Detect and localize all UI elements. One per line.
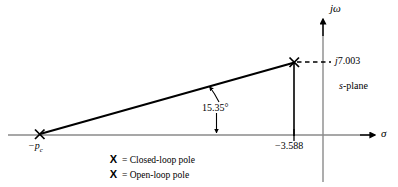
angle-leader-upper-arrow <box>210 87 220 103</box>
open-loop-pole-label-subscript: c <box>40 146 43 154</box>
real-axis-label: σ <box>381 128 386 139</box>
imaginary-value-number: 7.003 <box>338 55 361 66</box>
legend-item-open-loop-pole: X = Open-loop pole <box>108 167 195 182</box>
legend: X = Closed-loop pole X = Open-loop pole <box>108 152 195 182</box>
s-plane-label-rest: -plane <box>343 80 368 91</box>
pole-vector-line <box>40 63 295 135</box>
open-loop-pole-marker <box>35 130 45 140</box>
open-loop-pole-label: −pc <box>28 141 43 154</box>
s-plane-diagram <box>0 0 398 187</box>
closed-loop-pole-marker-icon: X <box>108 154 119 165</box>
imaginary-axis-label: jω <box>330 3 341 14</box>
legend-item-closed-loop-pole: X = Closed-loop pole <box>108 152 195 167</box>
legend-item-open-loop-pole-label: = Open-loop pole <box>122 170 189 180</box>
angle-label: 15.35° <box>202 103 229 113</box>
real-value-label: −3.588 <box>275 141 303 151</box>
imaginary-value-label: j7.003 <box>335 56 360 66</box>
legend-item-closed-loop-pole-label: = Closed-loop pole <box>122 155 195 165</box>
s-plane-label: s-plane <box>339 81 368 91</box>
open-loop-pole-marker-icon: X <box>108 169 119 180</box>
open-loop-pole-label-base: −p <box>28 140 40 151</box>
